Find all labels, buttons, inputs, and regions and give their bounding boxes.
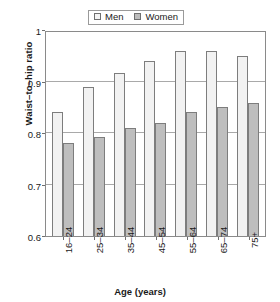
bar-group bbox=[175, 32, 197, 236]
bar-men bbox=[237, 56, 248, 236]
y-tick-label: 0.7 bbox=[28, 180, 41, 191]
x-tick-label: 45–54 bbox=[156, 227, 167, 253]
bar-women bbox=[63, 143, 74, 236]
y-tick-mark bbox=[42, 82, 45, 83]
bar-group bbox=[144, 32, 166, 236]
bar-women bbox=[125, 128, 136, 236]
bar-men bbox=[175, 51, 186, 236]
x-tick-slot: 55–64 bbox=[176, 240, 198, 280]
x-tick-slot: 75+ bbox=[238, 240, 260, 280]
bar-group bbox=[206, 32, 228, 236]
bar-group bbox=[52, 32, 74, 236]
y-tick-label: 0.8 bbox=[28, 129, 41, 140]
bar-women bbox=[217, 107, 228, 236]
plot-area bbox=[45, 31, 266, 237]
x-tick-slot: 45–54 bbox=[145, 240, 167, 280]
y-tick-label: 0.9 bbox=[28, 77, 41, 88]
y-tick-mark bbox=[42, 30, 45, 31]
bar-men bbox=[52, 112, 63, 236]
bar-men bbox=[144, 61, 155, 236]
legend-label-women: Women bbox=[145, 12, 178, 22]
y-tick-mark bbox=[42, 133, 45, 134]
legend-label-men: Men bbox=[105, 12, 123, 22]
bar-men bbox=[83, 87, 94, 236]
y-tick-label: 0.6 bbox=[28, 232, 41, 243]
bar-women bbox=[155, 123, 166, 236]
x-axis-ticks: 16–2425–3435–4445–5455–6465–7475+ bbox=[45, 240, 266, 280]
bar-groups bbox=[46, 32, 265, 236]
men-swatch-icon bbox=[94, 13, 101, 20]
legend-entry-men: Men bbox=[94, 12, 123, 22]
bar-group bbox=[114, 32, 136, 236]
bar-group bbox=[83, 32, 105, 236]
legend-entry-women: Women bbox=[134, 12, 178, 22]
x-axis-title: Age (years) bbox=[0, 286, 280, 297]
plot-wrapper: 0.60.70.80.91 bbox=[45, 31, 266, 237]
bar-men bbox=[114, 73, 125, 236]
x-tick-label: 75+ bbox=[249, 232, 260, 248]
y-tick-mark bbox=[42, 236, 45, 237]
x-tick-label: 25–34 bbox=[94, 227, 105, 253]
x-tick-slot: 35–44 bbox=[114, 240, 136, 280]
waist-to-hip-ratio-bar-chart: Men Women Waist–to–hip ratio 0.60.70.80.… bbox=[0, 0, 280, 302]
bar-men bbox=[206, 51, 217, 236]
bar-group bbox=[237, 32, 259, 236]
x-tick-label: 55–64 bbox=[187, 227, 198, 253]
x-tick-slot: 16–24 bbox=[52, 240, 74, 280]
chart-legend: Men Women bbox=[88, 10, 184, 25]
x-tick-label: 35–44 bbox=[125, 227, 136, 253]
y-tick-mark bbox=[42, 185, 45, 186]
x-tick-slot: 65–74 bbox=[207, 240, 229, 280]
bar-women bbox=[186, 112, 197, 236]
x-tick-label: 16–24 bbox=[63, 227, 74, 253]
y-tick-label: 1 bbox=[36, 26, 41, 37]
x-tick-slot: 25–34 bbox=[83, 240, 105, 280]
bar-women bbox=[248, 103, 259, 236]
women-swatch-icon bbox=[134, 13, 141, 20]
bar-women bbox=[94, 137, 105, 236]
x-tick-label: 65–74 bbox=[218, 227, 229, 253]
